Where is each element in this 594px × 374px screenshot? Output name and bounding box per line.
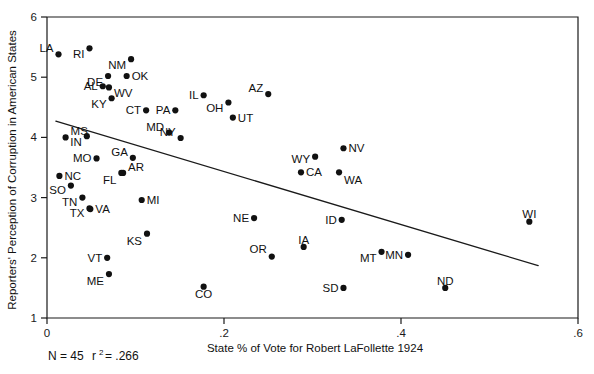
point-label-or: OR bbox=[250, 243, 267, 255]
point-label-ct: CT bbox=[126, 104, 141, 116]
data-point-tn bbox=[79, 195, 85, 201]
data-point-va bbox=[87, 206, 93, 212]
point-label-la: LA bbox=[39, 42, 53, 54]
data-point-ca bbox=[298, 169, 304, 175]
point-label-wy: WY bbox=[292, 153, 311, 165]
chart-canvas: 1234560.2.4.6 LARINMDEOKALWVKYAZILOHCTPA… bbox=[0, 0, 594, 374]
scatter-plot-figure: 1234560.2.4.6 LARINMDEOKALWVKYAZILOHCTPA… bbox=[0, 0, 594, 374]
data-point-ms bbox=[62, 134, 68, 140]
r-squared-exponent: 2 bbox=[99, 348, 104, 357]
point-label-nd: ND bbox=[437, 275, 454, 287]
point-label-id: ID bbox=[325, 214, 337, 226]
point-label-vt: VT bbox=[87, 252, 102, 264]
point-label-mn: MN bbox=[385, 249, 403, 261]
data-point-ri bbox=[86, 45, 92, 51]
point-label-wv: WV bbox=[114, 87, 133, 99]
y-tick-label: 4 bbox=[31, 131, 38, 143]
point-label-ok: OK bbox=[132, 70, 149, 82]
data-point-ut bbox=[230, 114, 236, 120]
data-point-az bbox=[265, 91, 271, 97]
point-label-nm: NM bbox=[108, 59, 126, 71]
data-point-wy bbox=[312, 154, 318, 160]
point-label-ut: UT bbox=[238, 112, 253, 124]
data-point-wa bbox=[336, 169, 342, 175]
point-label-me: ME bbox=[87, 275, 105, 287]
y-tick-label: 5 bbox=[31, 71, 37, 83]
point-label-mi: MI bbox=[147, 194, 160, 206]
data-point-sd bbox=[340, 285, 346, 291]
point-label-ri: RI bbox=[73, 48, 85, 60]
point-label-in: IN bbox=[70, 136, 82, 148]
point-label-sd: SD bbox=[322, 282, 338, 294]
point-label-ne: NE bbox=[233, 212, 249, 224]
point-label-oh: OH bbox=[206, 102, 223, 114]
point-label-fl: FL bbox=[103, 174, 117, 186]
y-tick-label: 2 bbox=[31, 252, 37, 264]
point-label-nc: NC bbox=[64, 170, 81, 182]
data-point-ok bbox=[124, 73, 130, 79]
data-point-ne bbox=[251, 215, 257, 221]
data-point-de bbox=[105, 73, 111, 79]
x-tick-label: .6 bbox=[573, 327, 583, 339]
data-point-vt bbox=[104, 255, 110, 261]
point-label-ca: CA bbox=[306, 166, 322, 178]
data-point-labels: LARINMDEOKALWVKYAZILOHCTPAUTMDNYMSINMOGA… bbox=[39, 42, 536, 300]
point-label-pa: PA bbox=[156, 104, 171, 116]
point-label-ga: GA bbox=[111, 146, 128, 158]
point-label-so: SO bbox=[49, 184, 66, 196]
data-point-ks bbox=[144, 231, 150, 237]
data-point-la bbox=[55, 51, 61, 57]
y-tick-label: 6 bbox=[31, 11, 37, 23]
data-point-nc bbox=[56, 173, 62, 179]
data-point-id bbox=[339, 217, 345, 223]
y-axis-title: Reporters' Perception of Corruption in A… bbox=[6, 30, 18, 310]
r-squared-symbol: r bbox=[92, 349, 96, 363]
stats-annotation: N = 45 r 2 = .266 bbox=[48, 348, 139, 363]
x-tick-label: .2 bbox=[219, 327, 229, 339]
point-label-mt: MT bbox=[360, 252, 377, 264]
data-point-wv bbox=[106, 84, 112, 90]
point-label-nv: NV bbox=[348, 142, 364, 154]
y-tick-label: 3 bbox=[31, 192, 37, 204]
data-point-mt bbox=[378, 249, 384, 255]
point-label-va: VA bbox=[95, 203, 110, 215]
x-tick-label: .4 bbox=[396, 327, 406, 339]
point-label-ar: AR bbox=[128, 161, 144, 173]
data-point-ny bbox=[178, 135, 184, 141]
point-label-ia: IA bbox=[298, 234, 309, 246]
point-label-az: AZ bbox=[249, 82, 264, 94]
data-point-or bbox=[269, 253, 275, 259]
point-label-co: CO bbox=[195, 288, 212, 300]
data-point-mi bbox=[139, 197, 145, 203]
point-label-ky: KY bbox=[91, 98, 107, 110]
x-axis-title: State % of Vote for Robert LaFollette 19… bbox=[207, 342, 424, 354]
data-point-ct bbox=[143, 107, 149, 113]
data-point-pa bbox=[172, 107, 178, 113]
point-label-ny: NY bbox=[160, 126, 176, 138]
point-label-ks: KS bbox=[127, 235, 143, 247]
data-points bbox=[55, 45, 532, 291]
point-label-wi: WI bbox=[522, 208, 536, 220]
data-point-so bbox=[68, 182, 74, 188]
y-tick-label: 1 bbox=[31, 312, 37, 324]
point-label-wa: WA bbox=[344, 174, 362, 186]
data-point-mn bbox=[405, 252, 411, 258]
point-label-il: IL bbox=[189, 89, 199, 101]
data-point-nm bbox=[128, 56, 134, 62]
data-point-nv bbox=[340, 145, 346, 151]
data-point-il bbox=[201, 92, 207, 98]
x-tick-label: 0 bbox=[44, 327, 50, 339]
sample-size-label: N = 45 bbox=[48, 349, 84, 363]
r-squared-value: = .266 bbox=[105, 349, 139, 363]
point-label-tx: TX bbox=[70, 207, 85, 219]
point-label-al: AL bbox=[84, 80, 99, 92]
data-point-oh bbox=[225, 99, 231, 105]
point-label-mo: MO bbox=[73, 152, 92, 164]
data-point-me bbox=[106, 271, 112, 277]
data-point-fl bbox=[118, 170, 124, 176]
data-point-mo bbox=[93, 155, 99, 161]
